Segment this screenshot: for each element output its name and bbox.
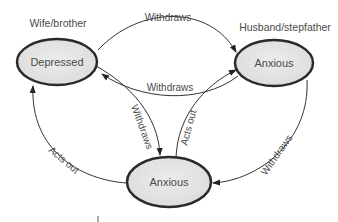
- node-depressed: Depressed: [17, 39, 97, 85]
- edge-label-withdraws-right: Withdraws: [259, 133, 295, 178]
- edge-label-withdraws-top: Withdraws: [145, 12, 192, 23]
- edge-label-acts-out-right: Acts out: [178, 109, 198, 147]
- family-interaction-diagram: Depressed Anxious Anxious Wife/brother H…: [0, 0, 338, 222]
- node-depressed-label: Depressed: [30, 56, 83, 68]
- node-anxious-bottom: Anxious: [127, 157, 211, 207]
- node-anxious-bottom-label: Anxious: [149, 176, 189, 188]
- edge-label-withdraws-middle: Withdraws: [147, 82, 194, 93]
- edge-label-withdraws-diagonal: Withdraws: [129, 103, 155, 151]
- role-label-husband-stepfather: Husband/stepfather: [239, 21, 331, 33]
- edge-label-acts-out-left: Acts out: [47, 144, 82, 176]
- node-anxious-right: Anxious: [235, 40, 313, 86]
- role-label-wife-brother: Wife/brother: [29, 17, 87, 29]
- node-anxious-right-label: Anxious: [254, 57, 294, 69]
